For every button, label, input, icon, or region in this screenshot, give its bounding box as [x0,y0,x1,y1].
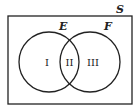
set-e-label: E [58,20,68,33]
universe-label: S [116,3,124,16]
venn-diagram: S E F I II III [0,0,138,111]
region-ii-label: II [66,57,74,68]
region-i-label: I [45,57,49,68]
region-iii-label: III [87,57,99,68]
set-f-label: F [103,20,113,33]
